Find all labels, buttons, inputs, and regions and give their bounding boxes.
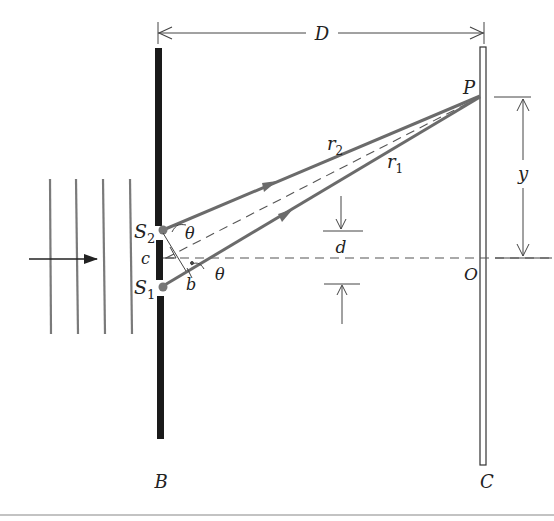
screen-c — [480, 47, 486, 465]
slit-s1-dot — [159, 283, 168, 292]
incident-wavefronts — [50, 179, 132, 334]
height-label: y — [517, 163, 529, 184]
double-slit-diagram: D S2 S1 c θ θ b r2 r1 — [0, 0, 554, 521]
center-ray — [166, 97, 480, 258]
ray-r1-arrowhead — [278, 209, 293, 222]
slit-separation-label: d — [336, 237, 347, 257]
point-p-label: P — [462, 77, 476, 98]
angle-theta-top-label: θ — [185, 224, 195, 243]
ray-r2 — [163, 96, 480, 230]
ray-r1-label: r1 — [387, 151, 403, 176]
angle-theta-mid-label: θ — [215, 265, 225, 284]
distance-dimension: D — [158, 22, 484, 44]
corner-label: c — [141, 249, 150, 268]
barrier-label: B — [153, 471, 167, 492]
distance-label: D — [314, 23, 330, 44]
path-difference-label: b — [186, 275, 196, 294]
slit-s2-label: S2 — [134, 220, 155, 246]
angle-construction — [163, 225, 204, 278]
slit-s1-label: S1 — [134, 276, 155, 302]
slit-separation-dimension — [323, 196, 363, 324]
barrier-b — [155, 48, 164, 439]
screen-label: C — [480, 471, 494, 492]
ray-r2-arrowhead — [262, 181, 277, 192]
ray-r2-label: r2 — [327, 133, 343, 158]
origin-o-label: O — [464, 264, 478, 284]
